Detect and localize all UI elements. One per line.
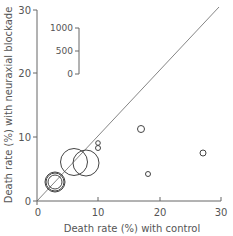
x-tick-10: 10 (92, 207, 105, 218)
x-tick-30: 30 (215, 207, 228, 218)
y-tick-30: 30 (18, 5, 31, 16)
bubble-chart: 30 20 10 0 0 10 20 30 Death rate (%) wit… (0, 0, 233, 236)
x-axis: 0 10 20 30 (35, 197, 228, 218)
legend-tick-0: 0 (67, 69, 73, 79)
y-tick-20: 20 (18, 68, 31, 79)
bubble (138, 126, 145, 133)
data-points (45, 126, 206, 193)
bubble (73, 150, 99, 176)
x-axis-label: Death rate (%) with control (64, 223, 200, 234)
bubble (200, 150, 206, 156)
bubble-size-legend: 1000 500 0 (50, 23, 79, 79)
legend-tick-500: 500 (56, 46, 73, 56)
y-axis: 30 20 10 0 (18, 5, 37, 207)
bubble (96, 146, 101, 151)
bubble (146, 172, 151, 177)
legend-tick-1000: 1000 (50, 23, 73, 33)
x-tick-0: 0 (35, 207, 41, 218)
y-tick-0: 0 (25, 196, 31, 207)
y-axis-label: Death rate (%) with neuraxial blockade (3, 7, 14, 204)
x-tick-20: 20 (154, 207, 167, 218)
bubble (96, 141, 101, 146)
y-tick-10: 10 (18, 132, 31, 143)
